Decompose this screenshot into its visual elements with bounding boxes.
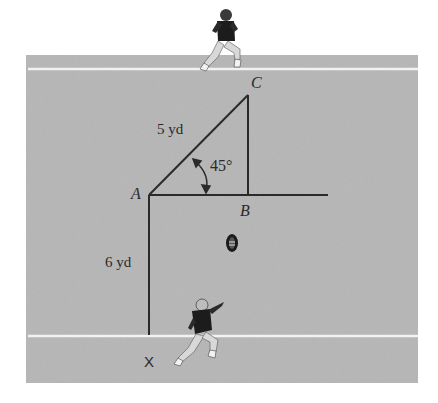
football-icon <box>226 234 238 252</box>
football-route-diagram: C 5 yd 45° A B 6 yd X <box>0 0 438 403</box>
ac-length-label: 5 yd <box>157 122 183 137</box>
point-x-label: X <box>144 354 154 369</box>
xa-length-label: 6 yd <box>105 255 131 270</box>
diagram-canvas <box>0 0 438 403</box>
point-c-label: C <box>251 75 262 91</box>
playing-field <box>26 55 418 383</box>
point-b-label: B <box>240 203 250 219</box>
angle-label: 45° <box>210 158 232 174</box>
point-a-label: A <box>131 186 141 202</box>
